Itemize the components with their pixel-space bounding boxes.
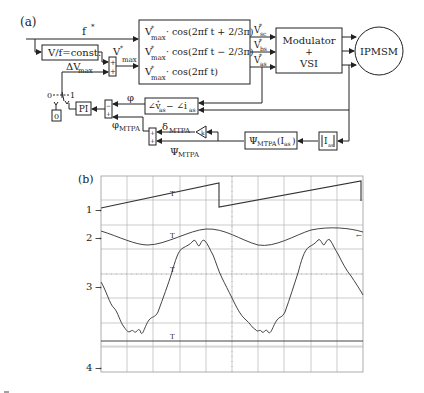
svg-text:*: * — [151, 24, 154, 31]
svg-text:φ: φ — [127, 92, 134, 103]
vf-const-block: V/f=const. — [42, 45, 101, 60]
svg-text:as: as — [189, 106, 196, 113]
svg-text:MTPA: MTPA — [169, 127, 191, 135]
svg-text:T: T — [170, 266, 175, 274]
svg-text:as: as — [159, 106, 166, 113]
svg-text:PI: PI — [79, 104, 89, 114]
phi-mtpa-label: φ MTPA — [112, 119, 141, 133]
svg-text:*: * — [151, 44, 154, 51]
svg-text:T: T — [170, 232, 175, 240]
svg-text:sc: sc — [260, 30, 267, 37]
mode-switch: 0 1 — [47, 91, 75, 110]
reference-voltage-outputs: V * sc V * bs V * as — [250, 22, 275, 67]
svg-text:*: * — [151, 64, 154, 71]
vmax-sum-junction: + + — [109, 57, 116, 76]
svg-text:+: + — [150, 129, 155, 136]
svg-text:*: * — [259, 22, 262, 29]
svg-text:k: k — [201, 129, 205, 136]
svg-text:MTPA: MTPA — [257, 140, 277, 148]
svg-text:T: T — [170, 190, 175, 198]
svg-text:as: as — [284, 140, 291, 147]
svg-text:1: 1 — [86, 204, 92, 215]
ipmsm-motor: IPMSM — [355, 27, 403, 75]
svg-text:φ: φ — [112, 119, 119, 130]
svg-text:→: → — [95, 234, 102, 243]
pi-controller-block: PI — [76, 102, 91, 115]
svg-text:MTPA: MTPA — [178, 151, 200, 159]
panel-a-label: (a) — [20, 15, 37, 29]
svg-text:bs: bs — [260, 45, 267, 52]
svg-text:*: * — [120, 44, 123, 51]
svg-text:max: max — [151, 54, 166, 62]
svg-text:+: + — [110, 68, 116, 76]
svg-text:· cos(2πf t − 2/3π): · cos(2πf t − 2/3π) — [166, 46, 254, 57]
svg-text:V/f=const.: V/f=const. — [47, 47, 101, 58]
svg-text:Modulator: Modulator — [282, 35, 335, 46]
svg-text:*: * — [259, 52, 262, 59]
gain-k-block: k — [196, 126, 206, 138]
diagram-canvas: (a) f * V/f=const. ΔV max + + V * max V … — [0, 0, 424, 393]
svg-text:δ: δ — [162, 121, 168, 132]
svg-text:+: + — [305, 47, 313, 57]
svg-text:max: max — [78, 67, 93, 75]
svg-text:T: T — [170, 333, 175, 341]
phi-mtpa-sum-junction: + + — [149, 128, 156, 145]
delta-vmax-label: ΔV max — [66, 61, 93, 75]
svg-text:4: 4 — [86, 362, 92, 373]
current-magnitude-block: I as — [319, 132, 337, 150]
svg-text:as: as — [328, 142, 334, 148]
svg-text:IPMSM: IPMSM — [360, 46, 398, 57]
svg-text:as: as — [260, 60, 267, 67]
svg-text:1: 1 — [70, 91, 75, 100]
channel-markers: 1 → 2 → 3 → 4 → — [86, 204, 102, 373]
svg-text:+: + — [110, 59, 116, 67]
svg-text:→: → — [95, 364, 102, 373]
psi-mtpa-lookup-block: Ψ MTPA (I as ) — [245, 132, 297, 149]
panel-b-label: (b) — [78, 173, 94, 186]
svg-text:−: − — [106, 102, 111, 109]
svg-text:max: max — [122, 56, 137, 64]
svg-text:*: * — [91, 23, 95, 31]
oscilloscope-grid — [101, 176, 363, 372]
svg-text:VSI: VSI — [299, 58, 318, 69]
svg-text:− ∠i: − ∠i — [166, 101, 187, 111]
svg-text:· cos(2πf t): · cos(2πf t) — [166, 66, 218, 77]
svg-text:→: → — [95, 283, 102, 292]
svg-text:0: 0 — [47, 91, 52, 100]
delta-mtpa-label: δ MTPA — [162, 121, 191, 135]
svg-text:max: max — [151, 34, 166, 42]
svg-text:2: 2 — [86, 232, 92, 243]
svg-text:←: ← — [356, 232, 362, 240]
reference-generator-block: V * max · cos(2πf t + 2/3π) V * max · co… — [139, 20, 254, 84]
svg-text:max: max — [151, 74, 166, 82]
svg-text:3: 3 — [86, 281, 92, 292]
phi-label: φ — [127, 92, 134, 103]
svg-text:f: f — [82, 25, 87, 38]
phi-sum-junction: − + — [105, 100, 112, 118]
zero-block: 0 — [52, 110, 61, 121]
psi-mtpa-label: Ψ MTPA — [170, 146, 200, 159]
svg-text:*: * — [259, 37, 262, 44]
svg-text:+: + — [106, 110, 111, 117]
svg-text:+: + — [150, 137, 155, 144]
svg-text:→: → — [95, 206, 102, 215]
phase-difference-block: ∠v * as − ∠i as — [145, 98, 198, 114]
svg-text:): ) — [292, 136, 296, 146]
svg-text:0: 0 — [54, 112, 59, 121]
modulator-vsi-block: Modulator + VSI — [276, 28, 342, 73]
svg-text:· cos(2πf t + 2/3π): · cos(2πf t + 2/3π) — [166, 26, 254, 37]
svg-text:MTPA: MTPA — [119, 125, 141, 133]
